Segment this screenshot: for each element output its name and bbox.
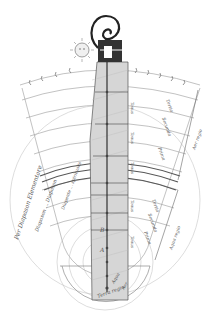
label-right-5: Secunda xyxy=(147,213,159,233)
label-tonus-4: Tonus xyxy=(130,200,135,212)
label-left-arc-inner: Diapason ... Diapason xyxy=(33,179,59,234)
monochord-neck xyxy=(90,62,128,300)
label-letter-a: A xyxy=(99,246,105,253)
label-right-6: Prima xyxy=(143,230,153,246)
label-tonus-5: Tonus xyxy=(130,236,135,248)
scroll-head xyxy=(92,16,124,62)
label-right-top: Aer regio xyxy=(191,128,203,151)
label-right-4: Tertia xyxy=(151,199,160,214)
monochord-engraving: Per Diapason Elementare Diapason ... Dia… xyxy=(0,0,210,323)
label-tonus-3: Tonus xyxy=(130,162,135,174)
label-right-bottom: Aqua regio xyxy=(168,225,182,251)
label-tonus-2: Tonus xyxy=(130,132,135,144)
label-letter-b: B xyxy=(99,226,105,233)
label-right-2: Secunda xyxy=(161,117,173,137)
sun-icon xyxy=(70,38,94,62)
label-tonus-1: Tonus xyxy=(130,102,135,114)
